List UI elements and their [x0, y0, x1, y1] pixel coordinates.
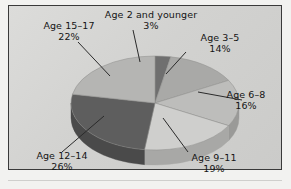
slice-label-pct: 22% [31, 31, 107, 42]
slice-label-title: Age 2 and younger [105, 9, 197, 20]
slice-label-title: Age 9–11 [191, 152, 236, 163]
slice-label-title: Age 12–14 [36, 150, 87, 161]
slice-label-age-9-11: Age 9–11 19% [177, 152, 251, 174]
slice-label-pct: 26% [23, 161, 101, 172]
slice-label-pct: 19% [177, 163, 251, 174]
slice-label-age-15-17: Age 15–17 22% [31, 20, 107, 42]
slice-label-pct: 14% [183, 43, 257, 54]
slice-label-age-6-8: Age 6–8 16% [212, 89, 280, 111]
slice-label-age-2-and-younger: Age 2 and younger 3% [104, 9, 198, 31]
slice-label-age-3-5: Age 3–5 14% [183, 32, 257, 54]
slice-label-title: Age 3–5 [201, 32, 240, 43]
chart-figure: Age 2 and younger 3% Age 3–5 14% Age 6–8… [0, 0, 291, 189]
slice-label-age-12-14: Age 12–14 26% [23, 150, 101, 172]
slice-label-title: Age 6–8 [227, 89, 266, 100]
slice-label-pct: 3% [104, 20, 198, 31]
slice-label-title: Age 15–17 [43, 20, 94, 31]
slice-label-pct: 16% [212, 100, 280, 111]
